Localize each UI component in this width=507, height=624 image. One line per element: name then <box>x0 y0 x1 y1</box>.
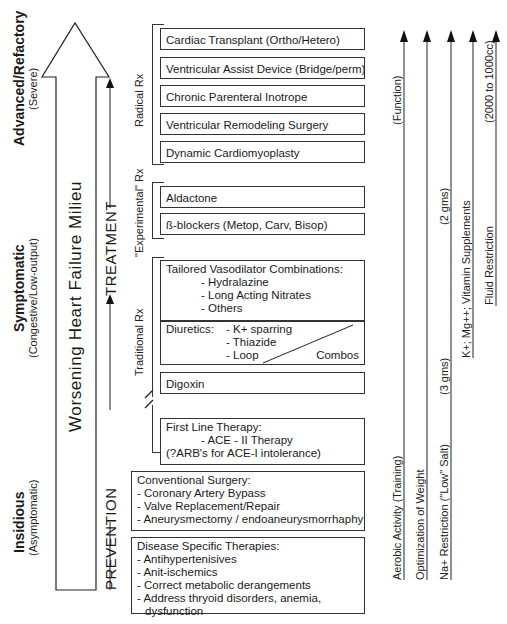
lifestyle-aerobic-label: Aerobic Activity (Training) <box>391 456 403 580</box>
experimental-item: ß-blockers (Metop, Carv, Bisop) <box>160 213 365 235</box>
first-line-therapy-box: First Line Therapy: - ACE - II Therapy (… <box>160 418 365 465</box>
radical-rx-label: Radical Rx <box>133 74 145 127</box>
vasodilators-box: Tailored Vasodilator Combinations: - Hyd… <box>160 260 365 322</box>
radical-item: Cardiac Transplant (Ortho/Hetero) <box>160 28 365 50</box>
disease-specific-therapies-box: Disease Specific Therapies: - Antihypert… <box>131 537 365 614</box>
diuretics-box: Diuretics: - K+ sparring - Thiazide - Lo… <box>160 320 365 365</box>
stage-insidious: Insidious (Asymptomatic) <box>12 480 39 556</box>
lifestyle-fluid-label: Fluid Restriction <box>483 226 495 305</box>
stage-advanced: Advanced/Refactory (Severe) <box>12 11 39 146</box>
radical-item: Ventricular Assist Device (Bridge/perm) <box>160 57 365 79</box>
lifestyle-weight-label: Optimization of Weight <box>414 470 426 580</box>
treatment-label: TREATMENT <box>102 201 119 296</box>
traditional-rx-label: Traditional Rx <box>133 309 145 376</box>
digoxin-box: Digoxin <box>160 372 365 394</box>
stage-symptomatic: Symptomatic (Congestive/Low-output) <box>12 238 39 358</box>
worsening-milieu-label: Worsening Heart Failure Milieu <box>66 181 86 432</box>
lifestyle-aerobic-note: (Function) <box>391 75 403 125</box>
conventional-surgery-box: Conventional Surgery: - Coronary Artery … <box>131 471 365 531</box>
lifestyle-fluid-note: (2000 to 1000cc) <box>483 40 495 123</box>
radical-item: Ventricular Remodeling Surgery <box>160 113 365 135</box>
radical-item: Chronic Parenteral Inotrope <box>160 85 365 107</box>
prevention-label: PREVENTION <box>102 487 119 590</box>
combos-label: Combos <box>316 349 359 362</box>
lifestyle-supplements-label: K+; Mg++; Vitamin Supplements <box>460 200 472 358</box>
experimental-item: Aldactone <box>160 186 365 208</box>
radical-item: Dynamic Cardiomyoplasty <box>160 141 365 163</box>
experimental-rx-label: "Experimental" Rx <box>133 168 145 257</box>
lifestyle-sodium-note-3g: (3 gms) <box>438 358 450 395</box>
lifestyle-sodium-label: Na+ Restriction ("Low" Salt) <box>438 444 450 580</box>
lifestyle-sodium-note-2g: (2 gms) <box>438 188 450 225</box>
